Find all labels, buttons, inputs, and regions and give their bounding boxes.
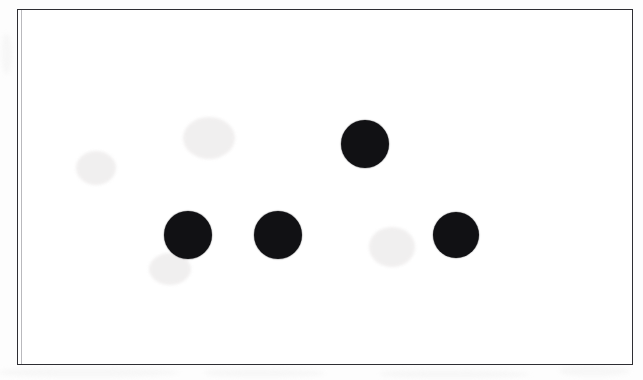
scan-smudge [183,117,235,159]
figure-page [0,0,643,380]
data-point-bottom-left [164,211,212,259]
scan-smudge [369,227,415,267]
paper-mark [205,369,325,377]
paper-mark [560,366,630,376]
data-point-bottom-middle [254,211,302,259]
paper-mark [380,370,530,378]
data-point-top [341,120,389,168]
figure-caption [0,0,1,1]
figure-frame-border [17,9,633,365]
data-point-bottom-right [433,212,479,258]
paper-mark [2,34,12,74]
paper-mark [0,368,180,377]
scan-smudge [76,151,116,185]
plot-area [18,10,632,364]
